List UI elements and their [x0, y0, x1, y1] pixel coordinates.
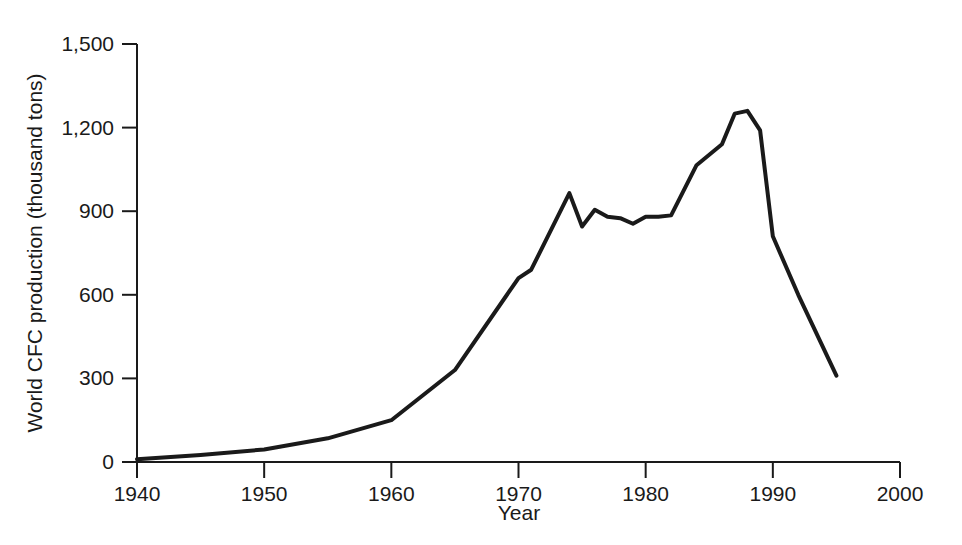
y-axis-tick-label: 600 — [79, 283, 114, 306]
x-axis-tick-label: 1940 — [114, 482, 161, 505]
y-axis-tick-label: 1,500 — [61, 32, 114, 55]
y-axis-title: World CFC production (thousand tons) — [23, 73, 46, 432]
chart-background — [0, 0, 962, 545]
x-axis-tick-label: 1990 — [749, 482, 796, 505]
y-axis-tick-label: 900 — [79, 199, 114, 222]
x-axis-title: Year — [498, 501, 540, 524]
line-chart: 03006009001,2001,500 1940195019601970198… — [0, 0, 962, 545]
y-axis-tick-label: 0 — [102, 450, 114, 473]
x-axis-tick-label: 1960 — [368, 482, 415, 505]
x-axis-tick-label: 2000 — [877, 482, 924, 505]
x-axis-tick-label: 1950 — [241, 482, 288, 505]
y-axis-tick-label: 1,200 — [61, 116, 114, 139]
y-axis-tick-label: 300 — [79, 366, 114, 389]
x-axis-tick-label: 1980 — [622, 482, 669, 505]
figure-container: 03006009001,2001,500 1940195019601970198… — [0, 0, 962, 545]
